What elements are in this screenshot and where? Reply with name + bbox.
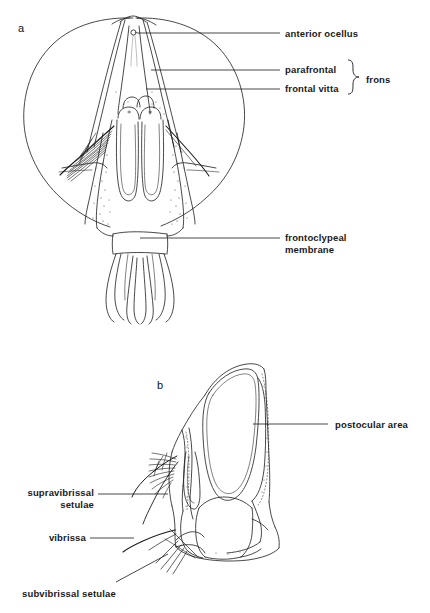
panel-letter-a: a — [18, 22, 24, 34]
label-vibrissa: vibrissa — [8, 532, 86, 544]
label-supravibrissal-setulae: supravibrissal setulae — [8, 487, 94, 510]
label-frontal-vitta: frontal vitta — [285, 83, 339, 95]
label-frontoclypeal-membrane-line2: membrane — [285, 244, 334, 255]
label-postocular-area: postocular area — [335, 419, 408, 431]
label-supravibrissal-setulae-line2: setulae — [60, 499, 94, 510]
panel-letter-b: b — [157, 379, 163, 391]
label-supravibrissal-setulae-line1: supravibrissal — [27, 487, 94, 498]
label-frons: frons — [366, 74, 391, 86]
figure-background — [0, 0, 430, 613]
anatomy-illustration — [0, 0, 430, 613]
figure-plate — [0, 0, 430, 613]
label-parafrontal: parafrontal — [285, 64, 336, 76]
label-anterior-ocellus: anterior ocellus — [285, 28, 358, 40]
label-subvibrissal-setulae: subvibrissal setulae — [22, 588, 116, 600]
label-frontoclypeal-membrane: frontoclypeal membrane — [285, 232, 395, 255]
label-frontoclypeal-membrane-line1: frontoclypeal — [285, 232, 347, 243]
